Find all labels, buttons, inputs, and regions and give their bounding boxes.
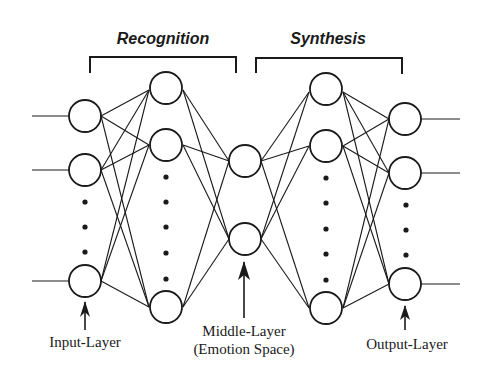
hidden-node bbox=[150, 291, 182, 323]
input-arrow-icon bbox=[80, 301, 90, 330]
synthesis-bracket bbox=[256, 58, 402, 74]
hidden-node bbox=[150, 72, 182, 104]
hidden-synthesis-layer bbox=[310, 73, 342, 324]
middle-layer-subcaption: (Emotion Space) bbox=[193, 341, 294, 358]
output-node bbox=[389, 268, 421, 300]
edges-middle-hidden2 bbox=[261, 92, 309, 308]
output-node bbox=[389, 103, 421, 135]
middle-node bbox=[229, 145, 261, 177]
edges-input-hidden1 bbox=[101, 90, 149, 307]
output-node bbox=[389, 157, 421, 189]
output-arrow-icon bbox=[400, 305, 410, 330]
output-layer-caption: Output-Layer bbox=[366, 336, 448, 352]
recognition-label: Recognition bbox=[117, 30, 210, 47]
synthesis-label: Synthesis bbox=[290, 30, 366, 47]
hidden-node bbox=[310, 130, 342, 162]
edges-hidden2-output bbox=[343, 92, 389, 308]
middle-node bbox=[229, 223, 261, 255]
input-layer bbox=[69, 100, 101, 297]
middle-arrow-icon bbox=[238, 261, 250, 318]
network-diagram: Recognition Synthesis bbox=[0, 0, 487, 366]
input-node bbox=[69, 154, 101, 186]
hidden-node bbox=[310, 73, 342, 105]
input-lines bbox=[32, 116, 69, 281]
input-layer-caption: Input-Layer bbox=[49, 334, 121, 350]
input-node bbox=[69, 265, 101, 297]
edges-hidden1-middle bbox=[183, 90, 229, 307]
input-node bbox=[69, 100, 101, 132]
hidden-node bbox=[310, 292, 342, 324]
output-layer bbox=[389, 103, 421, 300]
hidden-recognition-layer bbox=[150, 72, 182, 323]
hidden-node bbox=[150, 129, 182, 161]
recognition-bracket bbox=[90, 57, 236, 73]
middle-layer-caption: Middle-Layer bbox=[202, 323, 285, 339]
middle-layer bbox=[229, 145, 261, 255]
output-lines bbox=[421, 119, 460, 284]
